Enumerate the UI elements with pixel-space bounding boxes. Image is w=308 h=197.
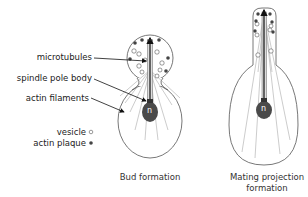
mating-projection-cell (229, 8, 298, 165)
legend-actin-plaque: actin plaque (33, 138, 86, 148)
microtubule-bundle (148, 38, 153, 100)
label-microtubules: microtubules (37, 52, 92, 62)
actin-plaque-legend-icon (89, 141, 93, 145)
label-actin-filaments: actin filaments (26, 93, 89, 103)
caption-mating-line1: Mating projection (222, 172, 308, 183)
caption-bud-formation: Bud formation (110, 172, 190, 183)
nucleus-label-left: n (147, 106, 152, 116)
bud-formation-cell (118, 35, 182, 158)
microtubule-bundle-right (262, 10, 267, 102)
legend-vesicle: vesicle (57, 127, 86, 137)
caption-mating-line2: formation (222, 183, 308, 194)
label-spindle-pole-body: spindle pole body (17, 73, 92, 83)
nucleus-label-right: n (261, 104, 266, 114)
vesicle-legend-icon (89, 130, 93, 134)
